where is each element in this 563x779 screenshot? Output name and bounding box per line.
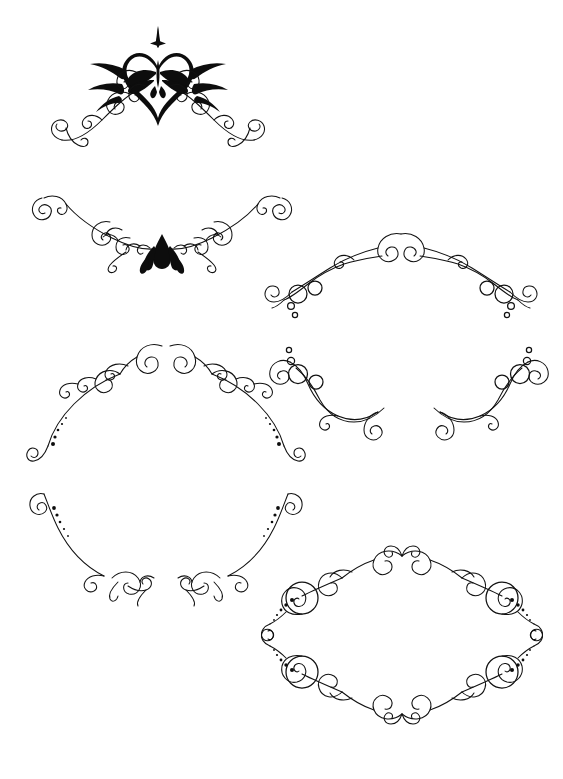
ornament-3-arched-bubble-flourish: [258, 222, 544, 320]
ornament-3-left-half: [265, 234, 401, 308]
bubble-medium: [495, 375, 509, 389]
ornament-5-right-half: [434, 360, 548, 439]
ornament-5-left-bubbles: [286, 347, 323, 389]
ornament-1-sparkle: [150, 26, 166, 48]
ornament-7-top-right-quadrant: [402, 551, 543, 641]
ornament-5-art: [266, 330, 552, 448]
medallion-ring: [286, 582, 318, 614]
medallion-ring: [486, 582, 518, 614]
medallion-ring: [286, 656, 318, 688]
bubble-tiny: [286, 347, 291, 352]
ornament-7-bottom-right-quadrant: [402, 629, 543, 719]
ornament-3-right-half: [401, 234, 537, 308]
ornament-4-art: [26, 336, 306, 476]
bubble-small: [508, 303, 515, 310]
ornament-7-art: [256, 538, 548, 732]
bubble-medium: [480, 281, 494, 295]
ornament-2-flame-motif: [140, 234, 184, 274]
ornament-sheet: [0, 0, 563, 779]
ornament-5-left-half: [270, 360, 384, 439]
ornament-1-fleur-de-lis: [127, 60, 189, 98]
ornament-5-right-bubbles: [495, 347, 532, 389]
ornament-7-top-left-quadrant: [261, 551, 402, 641]
ornament-3-art: [258, 222, 544, 320]
ornament-5-split-bubble-flourish: [266, 330, 552, 448]
bubble-medium: [309, 375, 323, 389]
ornament-4-left-half: [27, 344, 162, 461]
bubble-tiny: [504, 312, 509, 317]
ornament-2-left-half: [32, 196, 154, 273]
medallion-ring: [486, 656, 518, 688]
ornament-4-dome-scroll-flourish: [26, 336, 306, 476]
ornament-1-art: [18, 24, 298, 149]
bubble-tiny: [526, 347, 531, 352]
ornament-7-bottom-left-quadrant: [261, 629, 402, 719]
ornament-7-oval-frame-flourish: [256, 538, 548, 732]
ornament-7-center-scrolls: [384, 546, 420, 724]
bubble-small: [288, 303, 295, 310]
bubble-medium: [308, 281, 322, 295]
bubble-tiny: [292, 312, 297, 317]
ornament-6-left-half: [30, 494, 154, 606]
ornament-1-heart-fleur-crown-flourish: [18, 24, 298, 149]
